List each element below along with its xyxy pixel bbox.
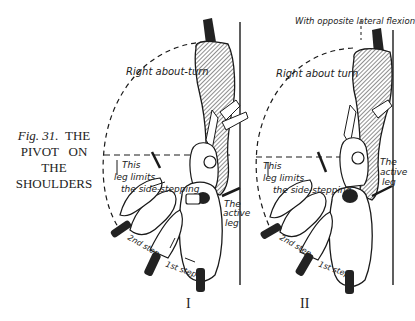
turn-label: Right about turn (276, 68, 358, 79)
head-shape (203, 18, 216, 44)
active-label-3: leg (382, 177, 396, 188)
panel-numeral-1: I (186, 296, 191, 312)
turn-label: Right about-turn (126, 66, 209, 77)
panel-1 (103, 18, 248, 292)
limit-label-1: This (263, 161, 281, 172)
limit-label-1: This (122, 160, 140, 171)
active-label-3: leg (225, 218, 239, 229)
panel-2 (256, 20, 393, 294)
limit-label-3: the side-stepping (273, 185, 351, 196)
limit-label-3: the side-stepping (121, 184, 199, 195)
limit-label-2: leg limits (263, 173, 304, 184)
flexion-label: With opposite lateral flexion (295, 16, 415, 27)
panel-numeral-2: II (300, 296, 309, 312)
limit-label-2: leg limits (114, 172, 155, 183)
